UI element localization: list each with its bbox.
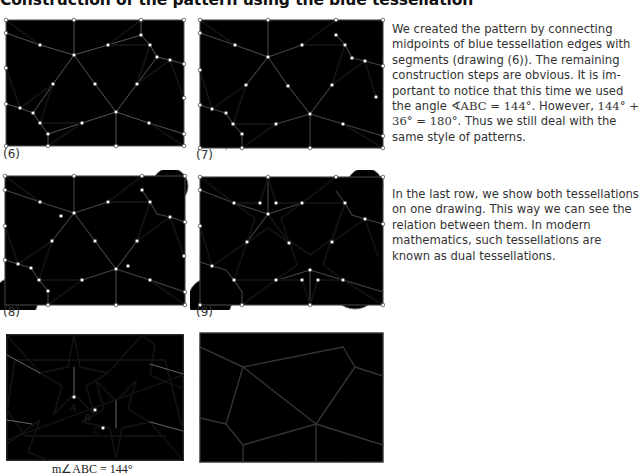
figure-9-drawing xyxy=(190,170,385,310)
figure-7-label: (7) xyxy=(196,148,213,162)
figure-8-label: (8) xyxy=(3,305,20,319)
construction-text-mid: . However, xyxy=(532,99,598,113)
dual-tessellation-drawing xyxy=(195,330,390,470)
angle-expression: ∢ABC = 144° xyxy=(451,99,532,113)
star-pattern-drawing: A B C xyxy=(0,330,195,465)
figure-8-drawing xyxy=(0,170,195,310)
figure-6-label: (6) xyxy=(3,147,20,161)
point-label-b: B xyxy=(84,412,90,423)
point-label-a: A xyxy=(69,402,77,413)
figure-6-drawing xyxy=(0,15,195,150)
figure-7-drawing xyxy=(190,15,385,155)
construction-paragraph: We created the pattern by connecting mid… xyxy=(392,22,640,145)
figure-9-label: (9) xyxy=(196,305,213,319)
section-title: Construction of the pattern using the bl… xyxy=(0,0,473,9)
point-label-c: C xyxy=(93,425,100,436)
dual-tessellation-paragraph: In the last row, we show both tessella­t… xyxy=(392,187,640,264)
angle-caption: m∠ABC = 144° xyxy=(52,462,133,476)
